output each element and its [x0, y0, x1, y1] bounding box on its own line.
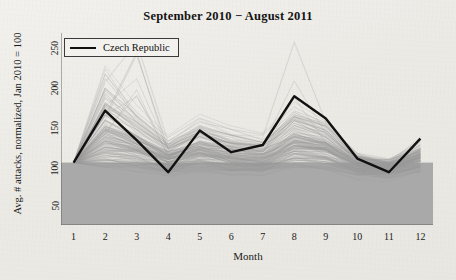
x-axis-label: Month: [60, 250, 436, 262]
x-tick-label: 6: [229, 231, 234, 242]
x-tick-label: 1: [71, 231, 76, 242]
legend-label-czech-republic: Czech Republic: [103, 42, 170, 53]
x-tick-label: 5: [197, 231, 202, 242]
y-tick-label: 100: [50, 161, 60, 175]
y-tick-label: 50: [50, 201, 60, 211]
x-tick-label: 4: [166, 231, 171, 242]
x-tick-label: 8: [292, 231, 297, 242]
plot-svg: [61, 33, 433, 225]
y-tick-label: 250: [50, 41, 60, 55]
x-tick-label: 7: [260, 231, 265, 242]
chart-figure: September 2010 − August 2011 Avg. # atta…: [0, 0, 456, 280]
x-tick-label: 9: [323, 231, 328, 242]
plot-area: [61, 33, 433, 225]
x-tick-label: 11: [384, 231, 394, 242]
chart-legend: Czech Republic: [64, 38, 179, 57]
x-tick-label: 2: [103, 231, 108, 242]
y-tick-label: 150: [50, 121, 60, 135]
x-tick-label: 12: [415, 231, 425, 242]
x-tick-label: 3: [134, 231, 139, 242]
y-tick-label: 200: [50, 81, 60, 95]
legend-line-swatch-czech-republic: [70, 47, 96, 49]
y-axis-label: Avg. # attacks, normalized, Jan 2010 = 1…: [12, 14, 23, 234]
chart-title: September 2010 − August 2011: [0, 9, 456, 24]
x-tick-label: 10: [352, 231, 362, 242]
background-series-group: [74, 41, 421, 181]
